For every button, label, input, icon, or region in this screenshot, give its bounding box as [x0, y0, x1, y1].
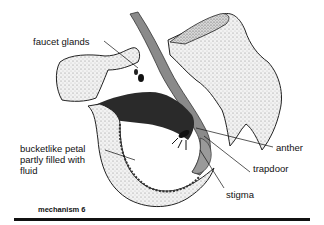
label-faucet-glands: faucet glands [33, 36, 90, 47]
label-trapdoor: trapdoor [253, 163, 288, 174]
gland-drop [134, 69, 138, 75]
bottom-rule [14, 218, 310, 221]
flower-illustration [0, 0, 324, 225]
hood-petal [56, 48, 139, 102]
label-bucket-petal-3: fluid [20, 165, 37, 176]
label-bucket-petal-2: partly filled with [20, 154, 85, 165]
label-anther: anther [276, 142, 303, 153]
label-bucket-petal-1: bucketlike petal [20, 143, 85, 154]
caption: mechanism 6 [38, 205, 86, 214]
gland-drop [138, 74, 144, 82]
label-stigma: stigma [226, 189, 254, 200]
